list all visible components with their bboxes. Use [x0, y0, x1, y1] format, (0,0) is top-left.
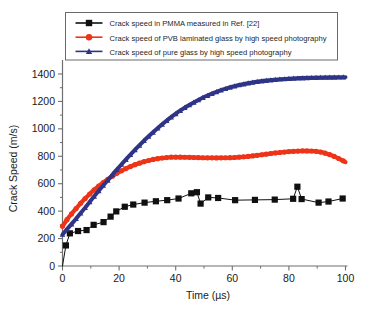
data-point [282, 149, 287, 154]
y-axis-title: Crack Speed (m/s) [7, 125, 19, 213]
data-point [146, 158, 151, 163]
data-point [60, 224, 65, 229]
data-point [325, 198, 331, 204]
data-point [141, 200, 147, 206]
data-point [150, 157, 155, 162]
data-point [198, 200, 204, 206]
data-point [264, 152, 269, 157]
data-point [205, 194, 211, 200]
data-point [209, 155, 214, 160]
data-point [300, 148, 305, 153]
data-point [75, 228, 81, 234]
x-tick-label-60: 60 [226, 272, 238, 284]
x-tick-label-100: 100 [337, 272, 355, 284]
data-point [246, 154, 251, 159]
y-tick-label-1200: 1200 [32, 95, 56, 107]
data-point [340, 195, 346, 201]
data-point [323, 151, 328, 156]
data-point [304, 148, 309, 153]
data-point [73, 206, 78, 211]
data-point [69, 211, 74, 216]
data-point [236, 155, 241, 160]
data-point [191, 155, 196, 160]
data-point [299, 196, 305, 202]
data-point [252, 197, 258, 203]
data-point [91, 222, 97, 228]
data-point [164, 197, 170, 203]
data-point [141, 159, 146, 164]
data-point [286, 149, 291, 154]
data-point [164, 155, 169, 160]
data-point [187, 155, 192, 160]
data-point [182, 155, 187, 160]
y-tick-label-600: 600 [37, 177, 55, 189]
data-point [175, 195, 181, 201]
data-point [272, 197, 278, 203]
data-point [194, 189, 200, 195]
data-point [259, 152, 264, 157]
data-point [295, 148, 300, 153]
data-point [255, 153, 260, 158]
y-tick-label-200: 200 [37, 232, 55, 244]
data-point [218, 155, 223, 160]
legend-entry-1[interactable]: Crack speed of PVB laminated glass by hi… [76, 34, 327, 43]
data-point [169, 155, 174, 160]
data-point [294, 184, 300, 190]
data-point [316, 200, 322, 206]
data-point [200, 155, 205, 160]
chart-figure: 0200400600800100012001400020406080100 Cr… [0, 0, 371, 313]
data-point [122, 204, 128, 210]
data-point [153, 198, 159, 204]
data-point [64, 217, 69, 222]
data-point [277, 150, 282, 155]
data-point [327, 152, 332, 157]
data-point [223, 155, 228, 160]
legend-label-0: Crack speed in PMMA measured in Ref. [22… [110, 19, 260, 28]
data-point [100, 219, 106, 225]
data-point [160, 155, 165, 160]
y-tick-label-400: 400 [37, 205, 55, 217]
x-tick-label-40: 40 [170, 272, 182, 284]
data-point [155, 156, 160, 161]
legend-label-1: Crack speed of PVB laminated glass by hi… [110, 34, 327, 43]
data-point [268, 151, 273, 156]
data-point [291, 149, 296, 154]
data-point [227, 155, 232, 160]
legend-label-2: Crack speed of pure glass by high speed … [110, 48, 292, 57]
x-tick-label-0: 0 [60, 272, 66, 284]
data-point [205, 155, 210, 160]
data-point [232, 197, 238, 203]
data-point [63, 242, 69, 248]
data-point [108, 214, 114, 220]
x-tick-label-20: 20 [113, 272, 125, 284]
y-tick-label-0: 0 [49, 260, 55, 272]
data-point [128, 164, 133, 169]
chart-legend: Crack speed in PMMA measured in Ref. [22… [66, 13, 338, 61]
data-point [78, 201, 83, 206]
data-point [309, 148, 314, 153]
data-point [130, 201, 136, 207]
x-axis-title: Time (µs) [186, 289, 230, 301]
data-point [290, 196, 296, 202]
data-point [341, 158, 346, 163]
data-point [332, 154, 337, 159]
data-point [273, 150, 278, 155]
data-point [83, 227, 89, 233]
y-tick-label-800: 800 [37, 150, 55, 162]
data-point [214, 155, 219, 160]
y-tick-label-1000: 1000 [32, 122, 56, 134]
data-point [196, 155, 201, 160]
data-point [318, 149, 323, 154]
legend-marker-square [86, 20, 92, 26]
data-point [336, 156, 341, 161]
x-tick-label-80: 80 [283, 272, 295, 284]
data-point [215, 195, 221, 201]
data-point [313, 149, 318, 154]
data-point [173, 155, 178, 160]
y-tick-label-1400: 1400 [32, 68, 56, 80]
data-point [113, 208, 119, 214]
crack-speed-line-chart: 0200400600800100012001400020406080100 Cr… [0, 0, 371, 313]
data-point [241, 154, 246, 159]
data-point [188, 190, 194, 196]
data-point [250, 153, 255, 158]
